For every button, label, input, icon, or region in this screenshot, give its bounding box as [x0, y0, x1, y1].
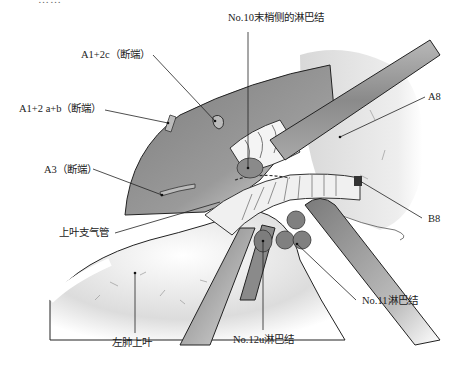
b8-clip [354, 176, 362, 186]
label-no11-lymph-node: No.11淋巴结 [362, 295, 418, 307]
no10-lymph-node [237, 158, 263, 178]
label-upper-lobe-bronchus: 上叶支气管 [59, 227, 109, 239]
surgical-illustration: …… [0, 0, 461, 368]
label-no12u-lymph-node: No.12u淋巴结 [233, 334, 294, 346]
label-a3: A3（断端） [44, 164, 97, 176]
label-a8: A8 [428, 91, 441, 103]
label-a12ab: A1+2 a+b（断端） [19, 103, 101, 115]
label-b8: B8 [428, 213, 440, 225]
label-left-upper-lobe: 左肺上叶 [112, 337, 152, 349]
label-no10-lymph-node: No.10末梢侧的淋巴结 [228, 12, 324, 24]
anatomy-drawing [0, 0, 461, 368]
label-a12c: A1+2c（断端） [81, 49, 150, 61]
